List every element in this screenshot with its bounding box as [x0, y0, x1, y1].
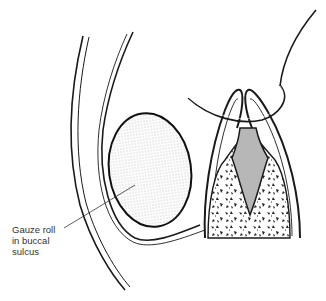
- gauze-roll: [101, 108, 198, 232]
- gauze-roll-label-line1: Gauze roll: [12, 224, 55, 235]
- gauze-roll-label: Gauze roll in buccal sulcus: [12, 224, 55, 257]
- gauze-roll-label-line2: in buccal: [12, 235, 55, 246]
- suture: [188, 10, 316, 122]
- gauze-roll-label-line3: sulcus: [12, 246, 55, 257]
